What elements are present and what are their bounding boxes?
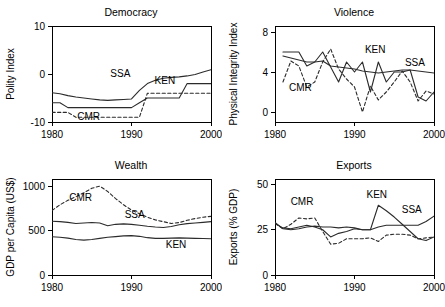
exports-label-ssa: SSA [402,204,422,215]
democracy-label-ken: KEN [155,75,176,86]
panel-wealth-title: Wealth [115,159,148,171]
democracy-xtick-label: 1980 [41,129,64,140]
wealth-xtick-label: 2000 [200,282,222,293]
panel-violence-ylabel: Physical Integrity Index [228,23,239,126]
violence-ytick-label: 8 [262,27,268,38]
exports-label-cmr: CMR [291,196,314,207]
panel-wealth: Wealth GDP per Capita (US$) 050010001980… [0,153,222,306]
democracy-label-ssa: SSA [110,68,130,79]
wealth-series-ken [52,236,211,241]
exports-ytick-label: 50 [257,179,269,190]
violence-xtick-label: 2000 [423,129,445,140]
wealth-ytick-label: 1000 [23,181,46,192]
violence-label-cmr: CMR [289,82,312,93]
panel-violence-title: Violence [334,6,374,18]
panel-exports: Exports Exports (% GDP) 0255019801990200… [223,153,445,306]
panel-exports-svg: Exports Exports (% GDP) 0255019801990200… [223,153,445,306]
panel-democracy: Democracy Polity Index -1001019801990200… [0,0,222,153]
violence-xtick-label: 1980 [264,129,287,140]
democracy-label-cmr: CMR [77,111,100,122]
democracy-xtick-label: 2000 [200,129,222,140]
exports-xtick-label: 1990 [343,282,366,293]
violence-frame [275,26,434,122]
democracy-series-ken [52,84,211,108]
democracy-series-group [52,70,211,118]
wealth-label-cmr: CMR [69,192,92,203]
exports-xtick-label: 1980 [264,282,287,293]
democracy-ytick-label: 10 [34,21,46,32]
democracy-xtick-label: 1990 [120,129,143,140]
wealth-ytick-label: 0 [39,270,45,281]
exports-label-ken: KEN [366,189,387,200]
violence-label-ken: KEN [365,44,386,55]
wealth-xtick-label: 1980 [41,282,64,293]
panel-democracy-plot: -10010198019902000SSAKENCMR [31,21,222,141]
panel-democracy-ylabel: Polity Index [5,48,16,100]
violence-xtick-label: 1990 [343,129,366,140]
democracy-ytick-label: 0 [39,69,45,80]
wealth-xtick-label: 1990 [120,282,143,293]
wealth-label-ssa: SSA [125,209,145,220]
wealth-series-ssa [52,221,211,227]
exports-ytick-label: 0 [262,270,268,281]
panel-wealth-svg: Wealth GDP per Capita (US$) 050010001980… [0,153,222,306]
violence-label-ssa: SSA [405,57,425,68]
panel-wealth-ylabel: GDP per Capita (US$) [5,177,16,276]
panel-democracy-svg: Democracy Polity Index -1001019801990200… [0,0,222,153]
panel-democracy-title: Democracy [104,6,158,18]
panel-violence: Violence Physical Integrity Index 048198… [223,0,445,153]
violence-ytick-label: 4 [262,67,268,78]
panel-exports-plot: 02550198019902000CMRKENSSA [257,179,445,293]
wealth-label-ken: KEN [166,239,187,250]
democracy-ytick-label: -10 [31,117,46,128]
panel-wealth-plot: 05001000198019902000CMRSSAKEN [23,179,222,293]
wealth-ytick-label: 500 [28,225,45,236]
panel-violence-svg: Violence Physical Integrity Index 048198… [223,0,445,153]
violence-ytick-label: 0 [262,107,268,118]
exports-xtick-label: 2000 [423,282,445,293]
figure-panel-grid: Democracy Polity Index -1001019801990200… [0,0,445,307]
democracy-series-ssa [52,70,211,101]
panel-exports-ylabel: Exports (% GDP) [228,189,239,266]
panel-exports-title: Exports [336,159,372,171]
panel-violence-plot: 048198019902000CMRKENSSA [262,26,445,140]
exports-ytick-label: 25 [257,224,269,235]
